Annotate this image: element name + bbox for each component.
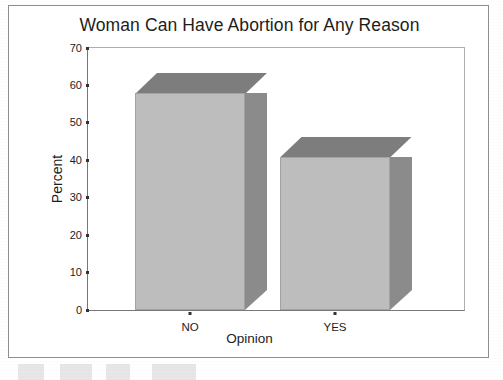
y-axis-tick-label: 60 xyxy=(70,80,82,91)
y-axis-tick-label: 30 xyxy=(70,192,82,203)
y-axis-tick-mark xyxy=(86,121,89,124)
x-axis-tick-mark xyxy=(189,312,192,315)
bar-front-face xyxy=(280,157,390,310)
y-axis-tick-label: 70 xyxy=(70,43,82,54)
y-axis-tick-label: 10 xyxy=(70,267,82,278)
bar-side-face xyxy=(390,157,412,310)
y-axis-tick-mark xyxy=(86,234,89,237)
y-axis-tick-label: 0 xyxy=(76,305,82,316)
x-axis-tick-mark xyxy=(334,312,337,315)
chart-title: Woman Can Have Abortion for Any Reason xyxy=(9,15,490,36)
bar-yes xyxy=(280,137,412,310)
y-axis-tick-mark xyxy=(86,309,89,312)
y-axis-tick-mark xyxy=(86,84,89,87)
page-scan-bleed-text xyxy=(18,364,318,380)
bar-top-face xyxy=(135,73,267,94)
bar-no xyxy=(135,73,267,310)
y-axis-tick-mark xyxy=(86,47,89,50)
plot-area: Percent 010203040506070 NOYES xyxy=(87,47,465,311)
y-axis-tick-mark xyxy=(86,159,89,162)
y-axis-tick-mark xyxy=(86,196,89,199)
bar-side-face xyxy=(245,93,267,310)
y-axis-tick-label: 50 xyxy=(70,117,82,128)
y-axis-tick-label: 20 xyxy=(70,230,82,241)
y-axis-title: Percent xyxy=(49,155,65,203)
x-axis-title: Opinion xyxy=(9,331,490,346)
y-axis-tick-label: 40 xyxy=(70,155,82,166)
y-axis-tick-mark xyxy=(86,271,89,274)
bar-front-face xyxy=(135,93,245,310)
chart-frame: Woman Can Have Abortion for Any Reason P… xyxy=(8,5,489,358)
bar-top-face xyxy=(280,137,412,158)
